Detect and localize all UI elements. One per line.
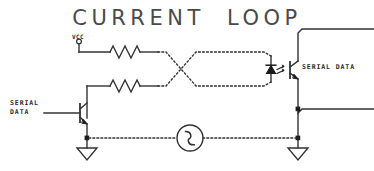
transistor-left (44, 103, 87, 140)
circuit-diagram-canvas: CURRENT LOOP (0, 0, 374, 171)
current-source (177, 125, 203, 151)
optocoupler-led (266, 56, 276, 82)
resistor-top (110, 46, 140, 58)
vcc-label: VCC (72, 33, 84, 42)
ground-left (77, 140, 97, 160)
optocoupler-phototransistor (290, 29, 374, 140)
serial-data-output-label: SERIAL DATA (302, 63, 355, 72)
light-emission-arrows (277, 65, 284, 73)
serial-data-input-label: SERIAL DATA (10, 99, 39, 116)
schematic-drawing (0, 0, 374, 171)
resistor-bottom (110, 80, 140, 92)
twisted-pair (158, 52, 271, 86)
ground-right (288, 140, 308, 160)
junction-dots (85, 107, 301, 141)
